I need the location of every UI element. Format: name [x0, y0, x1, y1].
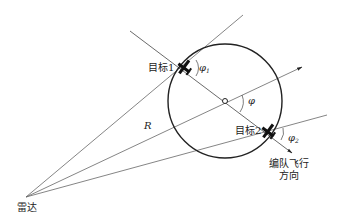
diagram-canvas — [0, 0, 342, 222]
label-angle-phi2: φ2 — [288, 133, 299, 144]
line-radar-to-target1 — [26, 15, 243, 197]
angle-phi-arc — [240, 95, 243, 112]
circle-center-marker — [223, 99, 228, 104]
label-angle-phi1: φ1 — [199, 63, 210, 74]
label-target1: 目标1 — [148, 63, 174, 73]
label-target2: 目标2 — [235, 126, 261, 136]
angle-phi2-arc — [281, 128, 284, 140]
line-radar-to-target2 — [26, 115, 327, 197]
label-formation-direction: 编队飞行 方向 — [269, 158, 309, 182]
formation-direction-line — [130, 31, 292, 153]
aircraft-target1-icon — [174, 57, 195, 78]
label-radar: 雷达 — [17, 203, 37, 213]
label-angle-phi: φ — [248, 96, 255, 106]
label-range-R: R — [144, 121, 152, 131]
